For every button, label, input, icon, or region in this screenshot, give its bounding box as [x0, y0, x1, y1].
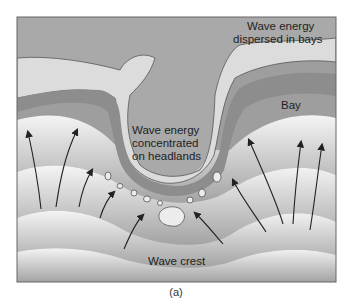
label-bay: Bay	[281, 99, 301, 111]
diagram-canvas: Wave energy dispersed in bays Wave energ…	[0, 0, 352, 304]
label-wave-crest: Wave crest	[148, 255, 206, 267]
label-concentrated-2: concentrated	[132, 137, 199, 149]
label-concentrated-1: Wave energy	[132, 124, 200, 136]
label-dispersed-2: dispersed in bays	[233, 33, 323, 45]
label-dispersed-1: Wave energy	[247, 20, 315, 32]
panel-label: (a)	[0, 286, 352, 298]
label-concentrated-3: on headlands	[132, 150, 201, 162]
wave-refraction-diagram: Wave energy dispersed in bays Wave energ…	[0, 0, 352, 304]
